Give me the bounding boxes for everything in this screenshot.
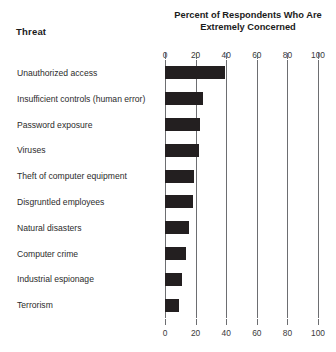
gridline-40	[226, 60, 227, 318]
tick-label-0: 0	[163, 328, 168, 338]
tick-label-40: 40	[222, 328, 231, 338]
bar	[165, 92, 203, 105]
bar	[165, 170, 194, 183]
tick-60	[257, 53, 258, 59]
tick-label-100: 100	[311, 328, 325, 338]
plot-area	[165, 60, 318, 318]
tick-label-60: 60	[252, 328, 261, 338]
category-label: Unauthorized access	[17, 68, 165, 78]
category-label: Insufficient controls (human error)	[17, 94, 165, 104]
bar	[165, 118, 200, 131]
tick-80	[287, 53, 288, 59]
bar	[165, 221, 189, 234]
tick-60	[257, 319, 258, 325]
bar	[165, 273, 182, 286]
bar	[165, 299, 179, 312]
tick-label-80: 80	[283, 328, 292, 338]
category-label: Disgruntled employees	[17, 197, 165, 207]
chart-figure: Threat Percent of Respondents Who Are Ex…	[0, 0, 336, 352]
category-label: Natural disasters	[17, 223, 165, 233]
chart-title-line-1: Percent of Respondents Who Are	[160, 10, 336, 22]
category-label: Industrial espionage	[17, 274, 165, 284]
tick-100	[318, 319, 319, 325]
gridline-100	[318, 60, 319, 318]
tick-100	[318, 53, 319, 59]
tick-20	[196, 53, 197, 59]
category-label: Viruses	[17, 145, 165, 155]
category-label-list: Unauthorized accessInsufficient controls…	[17, 60, 165, 318]
bar	[165, 195, 193, 208]
chart-title-line-2: Extremely Concerned	[160, 22, 336, 34]
category-label: Theft of computer equipment	[17, 171, 165, 181]
bar	[165, 144, 199, 157]
column-header-threat: Threat	[16, 26, 46, 37]
tick-80	[287, 319, 288, 325]
category-label: Computer crime	[17, 249, 165, 259]
category-label: Terrorism	[17, 300, 165, 310]
bar	[165, 247, 186, 260]
gridline-60	[257, 60, 258, 318]
tick-0	[165, 319, 166, 325]
bar	[165, 66, 225, 79]
chart-title: Percent of Respondents Who Are Extremely…	[160, 10, 336, 33]
tick-label-20: 20	[191, 328, 200, 338]
tick-0	[165, 53, 166, 59]
tick-40	[226, 319, 227, 325]
gridline-80	[287, 60, 288, 318]
tick-20	[196, 319, 197, 325]
category-label: Password exposure	[17, 120, 165, 130]
tick-40	[226, 53, 227, 59]
